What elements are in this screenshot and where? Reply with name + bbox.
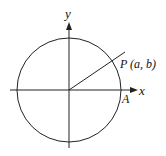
x-axis-arrow-icon	[130, 87, 138, 93]
x-axis-label: x	[138, 83, 145, 98]
unit-circle-diagram: y x P (a, b) A	[0, 0, 166, 156]
y-axis-label: y	[63, 6, 71, 21]
point-a-label: A	[121, 92, 130, 106]
point-p-label: P (a, b)	[119, 57, 156, 71]
radius-op	[69, 52, 125, 90]
y-axis-arrow-icon	[66, 22, 72, 30]
